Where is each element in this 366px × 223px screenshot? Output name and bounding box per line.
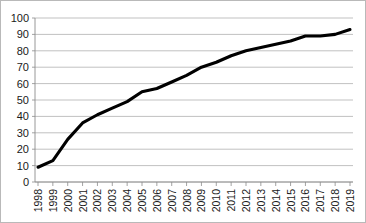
x-tick-label: 2014 bbox=[270, 189, 282, 213]
y-tick-label: 80 bbox=[17, 45, 29, 57]
y-tick-label: 30 bbox=[17, 127, 29, 139]
x-tick-label: 2002 bbox=[91, 189, 103, 213]
x-tick-label: 2019 bbox=[344, 189, 356, 213]
x-tick-label: 2015 bbox=[285, 189, 297, 213]
x-tick-label: 1998 bbox=[32, 189, 44, 213]
x-tick-labels: 1998199920002001200220032004200520062007… bbox=[32, 189, 356, 213]
y-tick-labels: 0102030405060708090100 bbox=[11, 12, 29, 188]
x-tick-label: 2004 bbox=[121, 189, 133, 213]
x-tick-label: 2007 bbox=[166, 189, 178, 213]
x-tick-label: 1999 bbox=[47, 189, 59, 213]
line-chart: 0102030405060708090100 19981999200020012… bbox=[1, 1, 366, 223]
x-tick-label: 2005 bbox=[136, 189, 148, 213]
x-tick-label: 2001 bbox=[77, 189, 89, 213]
x-tick-label: 2010 bbox=[210, 189, 222, 213]
x-tick-label: 2009 bbox=[195, 189, 207, 213]
x-tick-label: 2011 bbox=[225, 189, 237, 212]
y-tick-label: 100 bbox=[11, 12, 29, 24]
x-tick-label: 2000 bbox=[62, 189, 74, 213]
y-tick-label: 50 bbox=[17, 94, 29, 106]
x-tick-label: 2006 bbox=[151, 189, 163, 213]
x-tick-label: 2012 bbox=[240, 189, 252, 213]
y-axis bbox=[32, 18, 35, 182]
y-tick-label: 90 bbox=[17, 28, 29, 40]
y-tick-label: 60 bbox=[17, 78, 29, 90]
x-tick-label: 2008 bbox=[181, 189, 193, 213]
y-tick-label: 0 bbox=[23, 176, 29, 188]
x-tick-label: 2017 bbox=[314, 189, 326, 213]
y-tick-label: 70 bbox=[17, 61, 29, 73]
x-tick-marks bbox=[38, 182, 350, 186]
x-tick-label: 2018 bbox=[329, 189, 341, 213]
x-tick-label: 2013 bbox=[255, 189, 267, 213]
y-tick-label: 10 bbox=[17, 160, 29, 172]
chart-container: 0102030405060708090100 19981999200020012… bbox=[0, 0, 366, 223]
y-tick-label: 20 bbox=[17, 143, 29, 155]
x-tick-label: 2016 bbox=[299, 189, 311, 213]
x-tick-label: 2003 bbox=[106, 189, 118, 213]
y-tick-label: 40 bbox=[17, 110, 29, 122]
